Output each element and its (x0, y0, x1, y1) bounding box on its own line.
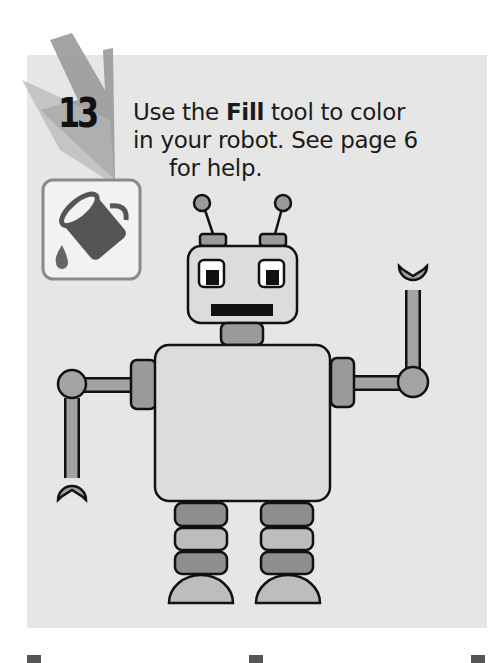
robot-illustration (0, 0, 495, 663)
page-mark (249, 655, 263, 663)
paint-bucket-icon (43, 180, 140, 279)
page-mark (27, 655, 41, 663)
page-mark (471, 655, 485, 663)
